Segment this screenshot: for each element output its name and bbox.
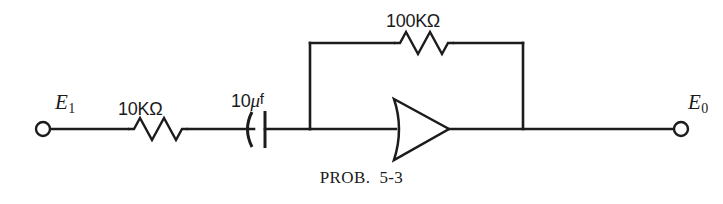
output-terminal-label: E0 xyxy=(688,92,708,116)
feedback-resistor-symbol xyxy=(394,32,454,54)
input-terminal-circle xyxy=(36,122,50,136)
amplifier-triangle-icon xyxy=(394,99,449,160)
feedback-resistor-label: 100KΩ xyxy=(386,12,440,30)
input-resistor-label: 10KΩ xyxy=(118,100,162,118)
input-terminal-label: E1 xyxy=(55,92,75,116)
output-subscript: 0 xyxy=(701,101,708,116)
circuit-figure: E1 10KΩ 10μf 100KΩ E0 PROB.5-3 xyxy=(0,0,723,204)
caption-label: PROB. xyxy=(320,168,371,187)
capacitor-unit-suffix: f xyxy=(260,90,264,107)
caption-number: 5-3 xyxy=(379,168,403,187)
capacitor-value: 10 xyxy=(231,91,250,111)
input-subscript: 1 xyxy=(68,101,75,116)
input-resistor-symbol xyxy=(128,118,188,140)
figure-caption: PROB.5-3 xyxy=(0,168,723,188)
output-terminal-circle xyxy=(674,122,688,136)
input-symbol: E xyxy=(55,90,68,114)
coupling-capacitor-label: 10μf xyxy=(231,91,264,110)
output-symbol: E xyxy=(688,90,701,114)
capacitor-mu-symbol: μ xyxy=(250,90,259,111)
